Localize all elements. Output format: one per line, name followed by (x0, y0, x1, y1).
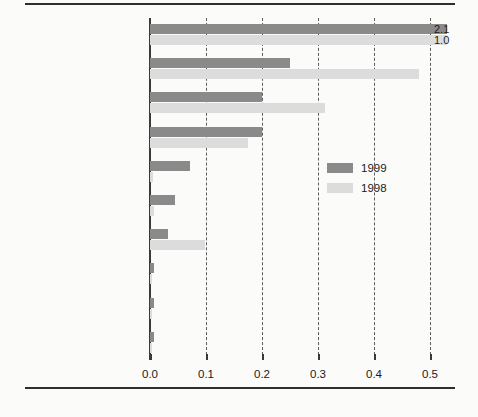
x-tick-label: 0.3 (310, 368, 326, 380)
legend-swatch-icon (327, 163, 353, 173)
bar-row (150, 326, 478, 360)
bar-1999 (150, 161, 190, 171)
bar-1998 (150, 274, 152, 284)
top-divider-rule (25, 3, 455, 5)
x-tick-mark (206, 354, 208, 360)
bar-1998 (150, 206, 154, 216)
bar-1999 (150, 127, 262, 137)
x-tick-label: 0.5 (422, 368, 438, 380)
bar-value-label: 1.0 (434, 35, 449, 45)
bar-row (150, 52, 478, 86)
bar-1999 (150, 58, 290, 68)
bottom-divider-rule (25, 387, 455, 389)
bar-row: 2.11.0 (150, 18, 478, 52)
legend-label: 1998 (361, 182, 387, 194)
bar-1999 (150, 92, 262, 102)
x-tick-label: 0.1 (198, 368, 214, 380)
plot-area: 2.11.0 Russian FederationHungaryPolandCz… (150, 18, 430, 360)
legend-label: 1999 (361, 162, 387, 174)
legend-item[interactable]: 1999 (327, 160, 387, 176)
x-tick-mark (262, 354, 264, 360)
bar-1999 (150, 195, 175, 205)
bar-1998 (150, 343, 152, 353)
bar-1998 (150, 69, 419, 79)
bar-value-label: 2.1 (434, 24, 449, 34)
x-tick-mark (374, 354, 376, 360)
bar-row (150, 189, 478, 223)
bar-1999 (150, 263, 154, 273)
chart-legend: 19991998 (327, 160, 387, 200)
bar-row (150, 121, 478, 155)
x-tick-label: 0.4 (366, 368, 382, 380)
bar-1998 (150, 240, 205, 250)
x-tick-mark (430, 354, 432, 360)
legend-swatch-icon (327, 183, 353, 193)
legend-item[interactable]: 1998 (327, 180, 387, 196)
bar-1998 (150, 172, 153, 182)
bar-1998 (150, 103, 325, 113)
x-tick-label: 0.2 (254, 368, 270, 380)
bar-1998 (150, 138, 248, 148)
bar-1998 (150, 35, 447, 45)
bar-1998 (150, 309, 152, 319)
bar-row (150, 86, 478, 120)
x-tick-label: 0.0 (142, 368, 158, 380)
x-tick-mark (318, 354, 320, 360)
chart-figure: 2.11.0 Russian FederationHungaryPolandCz… (0, 0, 478, 417)
bar-1999 (150, 24, 447, 34)
x-tick-mark (150, 354, 152, 360)
bar-row (150, 155, 478, 189)
bar-row (150, 292, 478, 326)
bar-row (150, 223, 478, 257)
bar-1999 (150, 332, 154, 342)
bar-1999 (150, 229, 168, 239)
bar-1999 (150, 298, 154, 308)
bar-row (150, 257, 478, 291)
